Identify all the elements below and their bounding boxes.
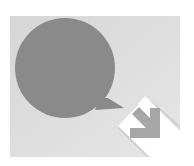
- chat-reply-icon: [0, 0, 194, 166]
- icon-graphic: [0, 0, 194, 166]
